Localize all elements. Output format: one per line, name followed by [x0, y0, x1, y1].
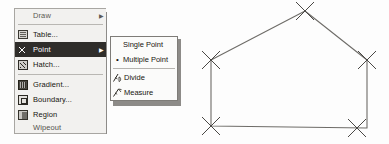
hatch-icon	[17, 59, 30, 71]
menu-item-gradient[interactable]: Gradient...	[15, 77, 106, 92]
table-icon	[17, 29, 30, 41]
menu-item-hatch[interactable]: Hatch...	[15, 57, 106, 72]
divide-icon	[112, 72, 123, 83]
menu-item-label: Draw	[33, 11, 98, 20]
submenu-separator	[113, 68, 175, 69]
submenu-item-label: Multiple Point	[123, 55, 168, 64]
menu-item-table[interactable]: Table...	[15, 27, 106, 42]
region-icon	[17, 109, 30, 121]
blank-icon	[17, 10, 30, 22]
chevron-right-icon: ▶	[98, 47, 106, 53]
point-marker-apex	[296, 2, 314, 20]
menu-item-point[interactable]: Point ▶	[15, 42, 106, 57]
menu-item-region[interactable]: Region	[15, 107, 106, 122]
menu-item-label: Boundary...	[33, 95, 98, 104]
menu-item-wipeout[interactable]: Wipeout	[15, 122, 106, 133]
point-submenu: Single Point • Multiple Point Divide Mea…	[110, 36, 178, 101]
menu-item-draw-clipped[interactable]: Draw ▶	[15, 9, 106, 22]
submenu-item-divide[interactable]: Divide	[111, 70, 177, 85]
gradient-icon	[17, 79, 30, 91]
menu-item-label: Point	[33, 45, 98, 54]
submenu-item-multiple-point[interactable]: • Multiple Point	[111, 52, 177, 67]
submenu-item-label: Measure	[124, 88, 153, 97]
polyline-geometry	[211, 11, 367, 128]
submenu-item-label: Single Point	[123, 40, 163, 49]
bullet-marker: •	[112, 56, 123, 64]
menu-item-label: Table...	[33, 30, 98, 39]
submenu-item-measure[interactable]: Measure	[111, 85, 177, 100]
measure-icon	[112, 87, 123, 98]
menu-item-label: Gradient...	[33, 80, 98, 89]
point-icon	[17, 44, 30, 56]
menu-separator	[18, 24, 103, 25]
point-markers	[202, 2, 376, 137]
chevron-right-icon: ▶	[98, 13, 106, 19]
blank-icon	[17, 122, 30, 133]
menu-separator	[18, 74, 103, 75]
menu-item-label: Hatch...	[33, 60, 98, 69]
menu-item-label: Wipeout	[33, 123, 98, 132]
menu-item-boundary[interactable]: Boundary...	[15, 92, 106, 107]
cad-drawing-canvas[interactable]	[190, 0, 389, 144]
boundary-icon	[17, 94, 30, 106]
submenu-item-single-point[interactable]: Single Point	[111, 37, 177, 52]
submenu-item-label: Divide	[124, 73, 145, 82]
menu-item-label: Region	[33, 110, 98, 119]
draw-dropdown-menu: Draw ▶ Table... Point ▶ Hatch... Gradien…	[14, 8, 106, 134]
